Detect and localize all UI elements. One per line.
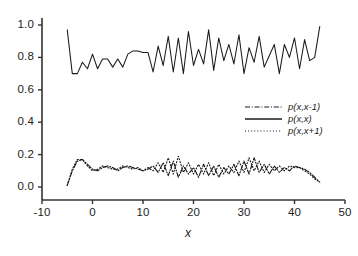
data-series-group [67,27,320,186]
series-line-1 [67,27,320,74]
x-tick-label: 50 [325,206,358,218]
legend-label-0: p(x,x-1) [288,101,320,112]
y-tick-label: 0.2 [0,148,34,160]
x-tick-label: 20 [174,206,214,218]
y-tick-label: 1.0 [0,18,34,30]
y-tick-label: 0.4 [0,115,34,127]
y-tick-label: 0.8 [0,50,34,62]
y-tick-label: 0.6 [0,83,34,95]
x-tick-label: -10 [22,206,62,218]
x-tick-label: 40 [275,206,315,218]
x-axis-title: x [168,226,208,240]
series-line-2 [67,156,320,185]
x-tick-label: 0 [73,206,113,218]
series-line-0 [67,158,320,186]
x-tick-label: 30 [224,206,264,218]
x-tick-label: 10 [123,206,163,218]
legend-label-2: p(x,x+1) [288,125,323,136]
legend-line-samples [245,107,282,131]
y-tick-label: 0.0 [0,180,34,192]
legend-label-1: p(x,x) [288,113,312,124]
chart-figure: 0.00.20.40.60.81.0 -1001020304050 x p(x,… [0,0,358,256]
